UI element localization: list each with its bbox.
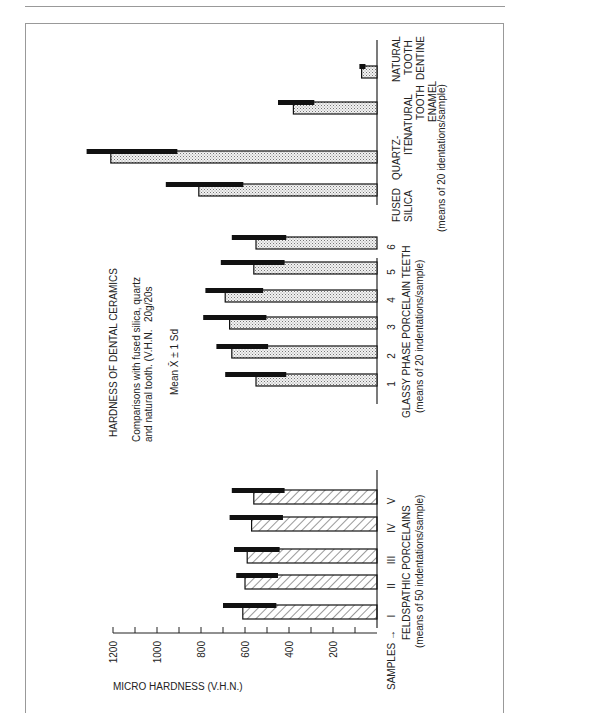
- category-label: 1: [386, 381, 397, 387]
- axis-tick-label: 1200: [108, 641, 119, 664]
- ref-label: SILICA: [403, 190, 414, 222]
- sd-bar: [230, 515, 283, 520]
- axis-tick-label: 600: [240, 641, 251, 658]
- sd-bar: [278, 100, 314, 105]
- axis-tick-label: 200: [328, 641, 339, 658]
- sd-bar: [205, 288, 263, 293]
- sd-bar: [221, 260, 285, 265]
- category-label: III: [386, 556, 397, 564]
- category-label: II: [386, 583, 397, 589]
- axis-tick-label: 400: [284, 641, 295, 658]
- group-label-feldspathic: FELDSPATHIC PORCELAINS: [401, 505, 412, 640]
- sd-bar: [234, 547, 280, 552]
- sd-bar: [232, 488, 285, 493]
- axis-title: MICRO HARDNESS (V.H.N.): [113, 681, 243, 692]
- category-label: 4: [386, 297, 397, 303]
- ref-label: QUARTZ-: [391, 136, 402, 180]
- ref-label: FUSED: [391, 188, 402, 222]
- category-label: I: [386, 615, 397, 618]
- sd-bar: [232, 235, 286, 240]
- group-note-reference: (means of 20 identations/sample): [436, 84, 447, 232]
- sd-bar: [223, 603, 276, 608]
- chart-title: HARDNESS OF DENTAL CERAMICS: [108, 268, 119, 437]
- category-label: 5: [386, 269, 397, 275]
- sd-bar: [225, 372, 286, 377]
- sd-bar: [87, 149, 178, 154]
- sd-bar: [203, 315, 266, 320]
- chart-subtitle: and natural tooth. (V.H.N.: [143, 330, 154, 442]
- chart-subtitle: Comparisons with fused silica, quartz: [131, 277, 142, 442]
- category-label: IV: [386, 523, 397, 533]
- category-label: 6: [386, 244, 397, 250]
- group-label-glassy: GLASSY PHASE PORCELAIN TEETH: [401, 246, 412, 418]
- group-note-glassy: (means of 20 indentations/sample): [414, 260, 425, 413]
- category-label: 3: [386, 324, 397, 330]
- ref-label: TOOTH: [415, 85, 426, 120]
- ref-label: DENTINE: [415, 36, 426, 80]
- axis-tick-label: 800: [196, 641, 207, 658]
- legend-note: Mean X̄ ± 1 Sd: [168, 329, 180, 395]
- group-note-feldspathic: (means of 50 indentations/sample): [414, 495, 425, 648]
- sd-bar: [359, 64, 365, 69]
- sd-bar: [236, 573, 278, 578]
- category-label: V: [386, 497, 397, 504]
- ref-label: NATURAL: [391, 36, 402, 82]
- sd-bar: [216, 344, 268, 349]
- ref-label: ITE: [403, 139, 414, 155]
- axis-tick-label: 1000: [152, 641, 163, 664]
- sd-bar: [166, 182, 244, 187]
- ref-label: TOOTH: [403, 40, 414, 75]
- category-label: 2: [386, 353, 397, 359]
- samples-label: SAMPLES →: [386, 630, 397, 690]
- labels: IIIIIIIVV123456SAMPLES →FELDSPATHIC PORC…: [108, 36, 447, 690]
- chart-load: 20g/20s: [143, 286, 154, 322]
- ref-label: NATURAL: [403, 94, 414, 140]
